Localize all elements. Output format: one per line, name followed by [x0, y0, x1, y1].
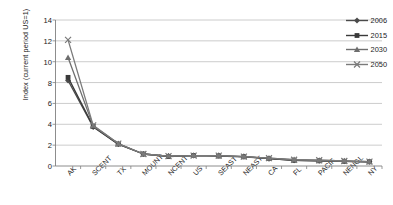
legend-marker-cross-icon [346, 60, 368, 69]
legend-marker-diamond-icon [346, 16, 368, 25]
series-2015 [66, 75, 372, 164]
legend-marker-square-icon [346, 31, 368, 40]
series-2006 [65, 77, 372, 164]
legend-label: 2050 [371, 60, 387, 69]
chart-legend: 2006201520302050 [346, 16, 387, 69]
series-line [68, 40, 369, 162]
legend-item-2030[interactable]: 2030 [346, 45, 387, 54]
legend-item-2015[interactable]: 2015 [346, 31, 387, 40]
data-point-marker [354, 33, 359, 38]
legend-item-2050[interactable]: 2050 [346, 60, 387, 69]
data-point-marker [66, 75, 71, 80]
legend-label: 2006 [371, 16, 387, 25]
data-point-marker [354, 18, 360, 24]
plot-area [0, 0, 393, 205]
legend-item-2006[interactable]: 2006 [346, 16, 387, 25]
legend-label: 2030 [371, 45, 387, 54]
series-line [68, 58, 369, 162]
series-2030 [65, 54, 373, 164]
legend-marker-triangle-icon [346, 45, 368, 54]
series-line [68, 80, 369, 161]
line-chart: Index (current period US=1) 02468101214 … [0, 0, 393, 205]
legend-label: 2015 [371, 31, 387, 40]
series-line [68, 77, 369, 161]
data-point-marker [65, 54, 71, 60]
